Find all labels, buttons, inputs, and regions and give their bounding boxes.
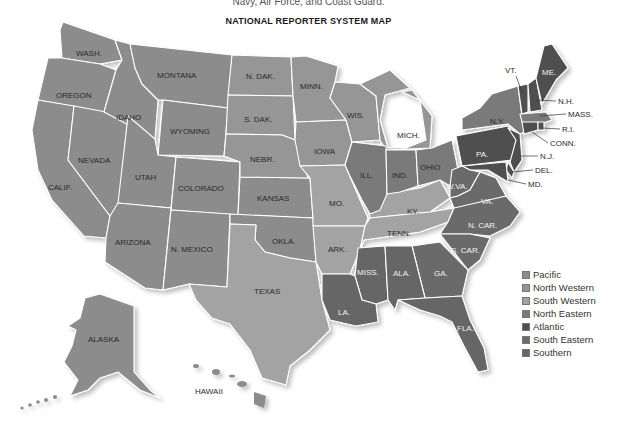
label-fla: FLA. bbox=[457, 324, 474, 333]
label-ga: GA. bbox=[434, 269, 448, 278]
label-nebr: NEBR. bbox=[250, 155, 274, 164]
label-md: MD. bbox=[528, 180, 543, 189]
state-ny bbox=[462, 86, 524, 134]
label-scar: S. CAR. bbox=[451, 246, 480, 255]
label-me: ME. bbox=[542, 68, 556, 77]
legend-label: North Eastern bbox=[533, 308, 592, 319]
state-iowa bbox=[295, 120, 352, 166]
label-ky: KY. bbox=[407, 207, 419, 216]
label-ind: IND. bbox=[392, 171, 408, 180]
label-nj: N.J. bbox=[540, 152, 554, 161]
label-ala: ALA. bbox=[393, 269, 410, 278]
label-montana: MONTANA bbox=[157, 71, 197, 80]
state-pa bbox=[456, 126, 516, 166]
label-wyoming: WYOMING bbox=[170, 127, 210, 136]
label-miss: MISS. bbox=[357, 268, 379, 277]
label-hawaii: HAWAII bbox=[195, 387, 223, 396]
label-utah: UTAH bbox=[135, 173, 156, 182]
label-nh: N.H. bbox=[558, 97, 574, 106]
legend-label: Pacific bbox=[533, 269, 561, 280]
label-nevada: NEVADA bbox=[78, 156, 111, 165]
label-ark: ARK. bbox=[328, 245, 347, 254]
state-fla bbox=[398, 296, 488, 372]
legend: Pacific North Western South Western Nort… bbox=[522, 268, 596, 359]
label-mo: MO. bbox=[329, 199, 344, 208]
label-ill: ILL. bbox=[360, 171, 373, 180]
legend-swatch bbox=[522, 310, 530, 318]
label-pa: PA. bbox=[476, 150, 488, 159]
legend-item-pacific: Pacific bbox=[522, 268, 596, 281]
label-la: LA. bbox=[338, 308, 350, 317]
legend-swatch bbox=[522, 349, 530, 357]
legend-swatch bbox=[522, 271, 530, 279]
label-sdak: S. DAK. bbox=[244, 115, 272, 124]
label-wis: WIS. bbox=[347, 111, 364, 120]
label-idaho: IDAHO bbox=[116, 113, 141, 122]
legend-swatch bbox=[522, 336, 530, 344]
legend-label: South Western bbox=[533, 295, 596, 306]
label-mich: MICH. bbox=[397, 131, 420, 140]
label-minn: MINN. bbox=[300, 82, 323, 91]
label-mass: MASS. bbox=[568, 110, 593, 119]
label-ndak: N. DAK. bbox=[246, 72, 275, 81]
legend-label: Atlantic bbox=[533, 321, 564, 332]
label-ohio: OHIO bbox=[420, 163, 440, 172]
aleutian-islands bbox=[20, 395, 57, 410]
label-tenn: TENN. bbox=[387, 229, 411, 238]
label-conn: CONN. bbox=[550, 139, 576, 148]
label-wash: WASH. bbox=[76, 49, 102, 58]
state-ri bbox=[538, 122, 544, 130]
state-hawaii bbox=[193, 364, 266, 408]
label-nmexico: N. MEXICO bbox=[171, 245, 213, 254]
legend-item-north-western: North Western bbox=[522, 281, 596, 294]
label-vt: VT. bbox=[505, 66, 517, 75]
legend-item-southern: Southern bbox=[522, 346, 596, 359]
label-alaska: ALASKA bbox=[88, 335, 120, 344]
legend-label: North Western bbox=[533, 282, 594, 293]
label-okla: OKLA. bbox=[272, 237, 296, 246]
legend-swatch bbox=[522, 284, 530, 292]
label-kansas: KANSAS bbox=[257, 194, 289, 203]
label-arizona: ARIZONA bbox=[115, 238, 151, 247]
state-alaska bbox=[64, 294, 160, 398]
label-oregon: OREGON bbox=[56, 91, 92, 100]
label-wva: W.VA. bbox=[446, 182, 468, 191]
label-ri: R.I. bbox=[562, 125, 574, 134]
legend-item-atlantic: Atlantic bbox=[522, 320, 596, 333]
legend-label: Southern bbox=[533, 347, 572, 358]
label-colorado: COLORADO bbox=[178, 184, 224, 193]
legend-swatch bbox=[522, 323, 530, 331]
legend-item-south-western: South Western bbox=[522, 294, 596, 307]
legend-swatch bbox=[522, 297, 530, 305]
legend-item-south-eastern: South Eastern bbox=[522, 333, 596, 346]
label-calif: CALIF. bbox=[48, 183, 72, 192]
label-del: DEL. bbox=[535, 166, 553, 175]
legend-label: South Eastern bbox=[533, 334, 593, 345]
label-ny: N.Y. bbox=[490, 117, 505, 126]
label-texas: TEXAS bbox=[254, 287, 280, 296]
state-conn bbox=[522, 122, 538, 134]
label-va: VA. bbox=[481, 197, 493, 206]
label-iowa: IOWA bbox=[314, 147, 336, 156]
label-ncar: N. CAR. bbox=[468, 221, 497, 230]
legend-item-north-eastern: North Eastern bbox=[522, 307, 596, 320]
